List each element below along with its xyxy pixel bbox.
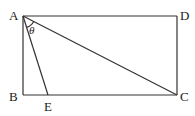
label-e: E xyxy=(44,99,52,114)
label-theta: θ xyxy=(29,24,35,36)
label-b: B xyxy=(9,89,18,104)
geometry-diagram: A B C D E θ xyxy=(0,0,195,116)
segment-ac xyxy=(23,16,177,95)
label-a: A xyxy=(9,8,19,23)
label-d: D xyxy=(180,8,189,23)
label-c: C xyxy=(180,89,189,104)
